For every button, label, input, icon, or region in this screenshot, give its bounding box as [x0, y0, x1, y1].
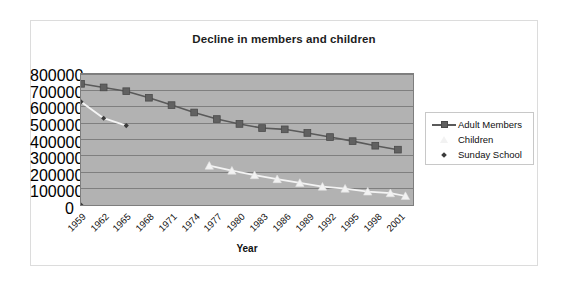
series-line: [81, 102, 126, 126]
y-tick-label: 500000: [30, 117, 74, 128]
data-marker: [168, 102, 175, 109]
legend-label: Adult Members: [458, 119, 522, 131]
legend-marker-square-icon: [441, 121, 448, 128]
legend-key-diamond-icon: [430, 148, 458, 162]
legend-label: Children: [458, 134, 493, 146]
data-marker: [146, 94, 153, 101]
data-marker: [395, 146, 402, 153]
y-tick-label: 100000: [30, 183, 74, 194]
y-tick-label: 200000: [30, 167, 74, 178]
y-tick-label: 300000: [30, 150, 74, 161]
legend-label: Sunday School: [458, 149, 522, 161]
y-tick-label: 700000: [30, 84, 74, 95]
data-marker: [205, 162, 213, 170]
data-marker: [81, 80, 84, 87]
legend-item[interactable]: Children: [430, 132, 529, 147]
y-tick-label: 600000: [30, 100, 74, 111]
data-marker: [124, 123, 129, 128]
data-marker: [304, 130, 311, 137]
data-marker: [281, 126, 288, 133]
legend-item[interactable]: Sunday School: [430, 147, 529, 162]
y-axis-tick-labels: 0100000200000300000400000500000600000700…: [31, 73, 76, 206]
data-marker: [372, 142, 379, 149]
data-marker: [100, 84, 107, 91]
legend-marker-triangle-icon: [440, 136, 448, 143]
legend-item[interactable]: Adult Members: [430, 117, 529, 132]
chart-legend: Adult MembersChildrenSunday School: [425, 112, 534, 165]
data-marker: [259, 125, 266, 132]
plot-area: [80, 73, 414, 206]
legend-key-square-icon: [430, 118, 458, 132]
chart-frame: Decline in members and children 01000002…: [30, 20, 538, 266]
y-tick-label: 0: [30, 200, 74, 211]
y-tick-label: 400000: [30, 134, 74, 145]
legend-marker-diamond-icon: [441, 152, 447, 158]
data-marker: [213, 116, 220, 123]
y-tick-label: 800000: [30, 67, 74, 78]
data-marker: [327, 134, 334, 141]
x-axis-title: Year: [80, 243, 414, 254]
data-marker: [123, 88, 130, 95]
legend-key-triangle-icon: [430, 133, 458, 147]
data-marker: [236, 121, 243, 128]
series-line: [209, 166, 405, 196]
screenshot-root: Decline in members and children 01000002…: [0, 0, 566, 288]
plot-svg: [81, 74, 413, 205]
data-marker: [191, 109, 198, 116]
data-marker: [349, 138, 356, 145]
chart-title: Decline in members and children: [31, 33, 537, 45]
data-marker: [81, 202, 84, 205]
